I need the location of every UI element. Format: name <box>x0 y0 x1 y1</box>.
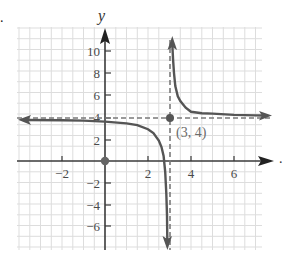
y-tick-label: 10 <box>87 44 100 59</box>
y-tick-label: −6 <box>86 219 100 234</box>
graph: . <box>0 0 286 256</box>
x-tick-label: −2 <box>55 166 69 181</box>
x-tick-label: 2 <box>145 166 152 181</box>
trailing-period: . <box>279 151 283 166</box>
y-axis-title: y <box>96 7 106 25</box>
y-tick-label: −4 <box>86 198 100 213</box>
y-tick-label: −2 <box>86 176 100 191</box>
origin-point <box>101 157 109 165</box>
y-axis: y 10 8 6 4 2 −2 −4 −6 <box>86 7 111 250</box>
point-3-4 <box>166 114 174 122</box>
grid <box>17 27 262 250</box>
x-axis: −2 2 4 6 . <box>17 151 283 181</box>
point-label: (3, 4) <box>176 125 207 141</box>
x-tick-label: 6 <box>231 166 238 181</box>
bullet-mark: . <box>0 10 4 25</box>
x-tick-label: 4 <box>188 166 195 181</box>
y-tick-label: 2 <box>94 133 101 148</box>
y-tick-label: 6 <box>94 88 101 103</box>
y-tick-label: 8 <box>94 66 101 81</box>
